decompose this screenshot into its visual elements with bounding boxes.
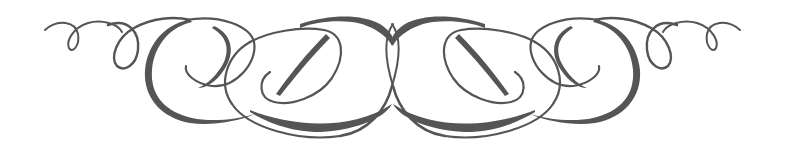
right-flourish-half xyxy=(386,17,740,138)
left-flourish-half xyxy=(45,17,399,138)
flourish-ornament: Symmetric calligraphic flourish divider xyxy=(0,0,785,155)
flourish-divider-icon xyxy=(0,0,785,155)
